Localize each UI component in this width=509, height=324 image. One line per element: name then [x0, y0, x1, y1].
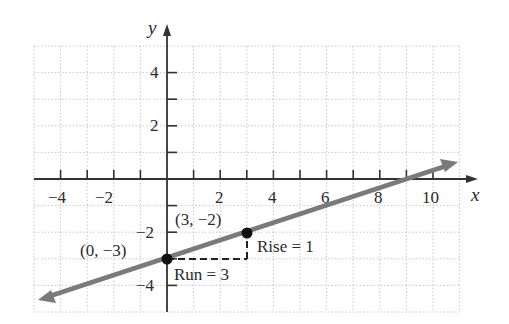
line-arrow-right-icon [440, 159, 458, 172]
x-tick-label: 2 [215, 188, 224, 207]
x-tick-label: 4 [268, 188, 277, 207]
x-tick-label: −4 [48, 188, 67, 207]
point-3-neg2 [242, 228, 253, 239]
y-tick-label: −4 [136, 276, 155, 295]
y-axis [163, 24, 171, 312]
line-arrow-left-icon [38, 290, 56, 303]
y-axis-arrow-icon [163, 24, 171, 36]
y-tick-label: 2 [150, 116, 159, 135]
point-label-a: (0, −3) [80, 241, 126, 260]
chart-figure: −4 −2 2 4 6 8 10 4 2 −2 −4 y x (0, −3) (… [0, 0, 509, 324]
x-axis-label: x [470, 184, 480, 205]
x-tick-label: 10 [422, 188, 439, 207]
x-tick-labels: −4 −2 2 4 6 8 10 [48, 188, 439, 207]
y-tick-label: −2 [136, 223, 154, 242]
x-tick-label: −2 [95, 188, 113, 207]
x-axis-arrow-icon [466, 175, 478, 183]
y-axis-label: y [146, 17, 157, 38]
rise-label: Rise = 1 [257, 237, 314, 256]
point-label-b: (3, −2) [175, 210, 221, 229]
run-label: Run = 3 [174, 265, 229, 284]
point-0-neg3 [162, 254, 173, 265]
y-tick-label: 4 [150, 63, 159, 82]
chart-svg: −4 −2 2 4 6 8 10 4 2 −2 −4 y x (0, −3) (… [0, 0, 509, 324]
